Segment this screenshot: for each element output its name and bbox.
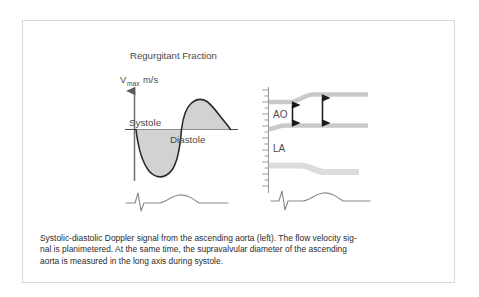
- aortic-posterior-wall: [269, 126, 368, 130]
- caption-line-3: aorta is measured in the long axis durin…: [40, 256, 436, 267]
- ecg-trace-left: [126, 193, 228, 211]
- label-ao: AO: [273, 109, 288, 120]
- figure-illustration: Regurgitant Fraction V max m/s: [23, 21, 454, 226]
- caption-line-2: nal is planimetered. At the same time, t…: [40, 244, 436, 255]
- ecg-trace-right: [271, 191, 370, 210]
- figure-caption: Systolic-diastolic Doppler signal from t…: [40, 233, 436, 267]
- y-axis-label-vmax: V: [120, 74, 127, 85]
- left-panel-doppler: Regurgitant Fraction V max m/s: [120, 50, 238, 211]
- y-axis-label-units: m/s: [143, 74, 158, 85]
- medical-figure-svg: Regurgitant Fraction V max m/s: [23, 21, 454, 226]
- left-panel-title: Regurgitant Fraction: [130, 50, 217, 61]
- y-axis-label-subscript: max: [127, 80, 140, 87]
- label-systole: Systole: [129, 117, 162, 128]
- figure-page: Regurgitant Fraction V max m/s: [0, 0, 479, 297]
- caption-line-1: Systolic-diastolic Doppler signal from t…: [40, 233, 436, 244]
- figure-frame: Regurgitant Fraction V max m/s: [22, 20, 455, 283]
- label-la: LA: [273, 143, 286, 154]
- depth-scale-ticks: [262, 90, 269, 186]
- label-diastole: Diastole: [170, 134, 206, 145]
- right-panel-mmode: AO LA: [262, 87, 370, 210]
- diastole-fill: [182, 100, 231, 130]
- la-posterior-wall: [269, 166, 359, 173]
- aortic-anterior-wall: [269, 95, 368, 103]
